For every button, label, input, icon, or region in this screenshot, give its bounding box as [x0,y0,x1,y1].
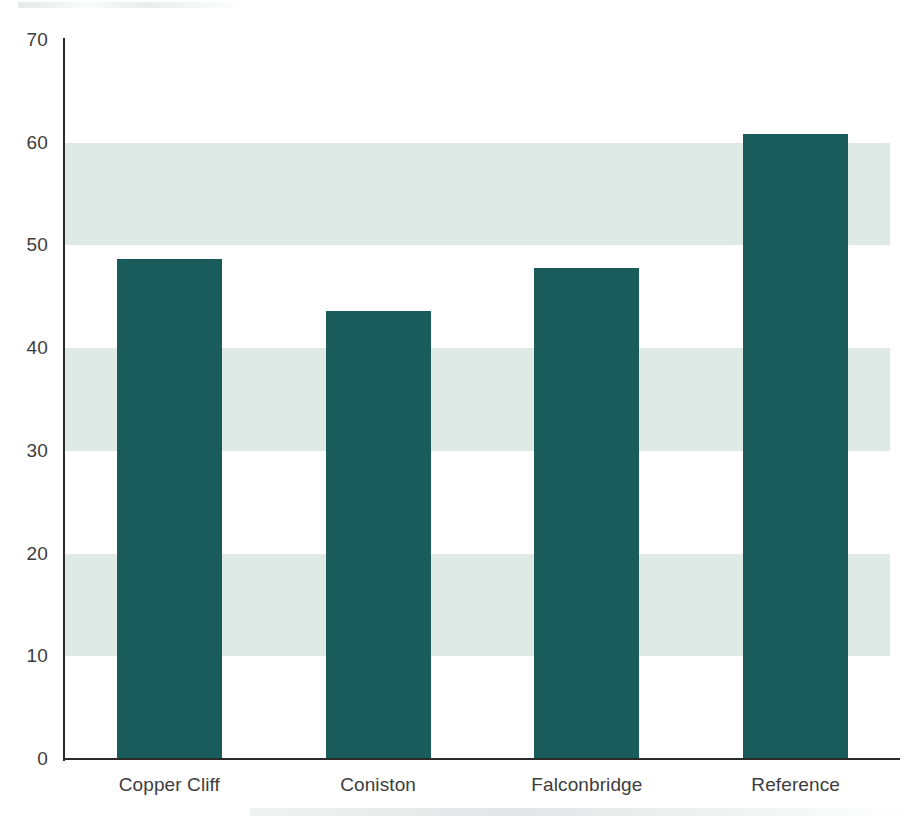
y-tick-label: 70 [4,30,48,49]
bar-chart: 010203040506070 Copper CliffConistonFalc… [0,0,918,817]
x-tick-label: Falconbridge [477,775,697,794]
y-axis-line [63,38,65,761]
y-tick-label: 40 [4,338,48,357]
x-tick-label: Copper Cliff [59,775,279,794]
x-axis-line [63,758,900,760]
scan-artifact-bottom [250,808,910,816]
x-tick-label: Reference [686,775,906,794]
bar-falconbridge [534,268,639,759]
bar-coniston [326,311,431,759]
y-tick-label: 20 [4,544,48,563]
y-tick-label: 30 [4,441,48,460]
x-tick-label: Coniston [268,775,488,794]
y-tick-label: 10 [4,646,48,665]
scan-artifact-top [18,2,248,8]
y-tick-label: 50 [4,235,48,254]
bar-reference [743,134,848,759]
y-tick-label: 60 [4,133,48,152]
y-tick-label: 0 [4,749,48,768]
bar-copper-cliff [117,259,222,759]
